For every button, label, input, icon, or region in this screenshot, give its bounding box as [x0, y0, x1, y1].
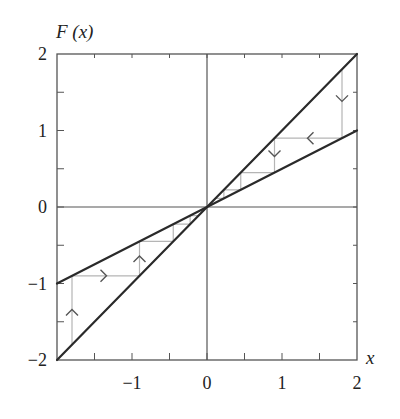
y-tick-label: −1: [28, 274, 47, 294]
y-tick-label: 2: [38, 44, 47, 64]
y-tick-label: 1: [38, 121, 47, 141]
y-tick-label: 0: [38, 197, 47, 217]
y-axis-label: F (x): [55, 21, 93, 43]
x-tick-label: −1: [122, 373, 141, 393]
x-axis-label: x: [365, 347, 375, 368]
y-tick-label: −2: [28, 350, 47, 370]
x-tick-label: 0: [203, 373, 212, 393]
x-tick-label: 1: [278, 373, 287, 393]
cobweb-chart: −1012−2−1012 F (x) x: [0, 0, 400, 419]
x-tick-label: 2: [353, 373, 362, 393]
